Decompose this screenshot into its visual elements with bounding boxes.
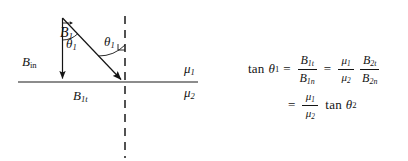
- theta1-interface-sub: 1: [110, 40, 114, 50]
- equation-line-2: = μ1 μ2 tanθ2: [248, 88, 382, 122]
- fraction-b2t-over-b2n: B2t B2n: [360, 53, 379, 86]
- normal-angle-tick: [118, 44, 125, 50]
- equation-line-1: tanθ1 = B1t B1n = μ1 μ2 B2t B2n: [248, 52, 382, 86]
- b1t-label-sub: 1t: [81, 94, 88, 104]
- tan-function-1: tan: [248, 61, 264, 77]
- frac1-den-base: B: [300, 71, 307, 85]
- frac3-den-sub: 2n: [369, 76, 377, 85]
- theta1-apex-sub: 1: [72, 42, 76, 52]
- bin-label-base: B: [22, 54, 30, 69]
- frac1-num-sub: 1t: [308, 58, 314, 67]
- b1t-label: B1t: [73, 89, 88, 102]
- b1t-label-base: B: [73, 88, 81, 103]
- fraction-4-numerator: μ1: [304, 90, 317, 104]
- mu2-label: μ2: [184, 86, 195, 99]
- frac4-den-sub: 2: [311, 112, 315, 120]
- fraction-2-numerator: μ1: [340, 54, 353, 68]
- fraction-4-bar: [302, 105, 318, 106]
- bin-label-sub: in: [30, 60, 37, 70]
- fraction-mu1-over-mu2-line1: μ1 μ2: [338, 54, 354, 85]
- mu1-sub: 1: [191, 67, 195, 77]
- figure-canvas: B1 Bin θ1 θ1 B1t μ1 μ2 tanθ1 = B1t B1n =…: [0, 0, 408, 161]
- equals-sign-1: =: [283, 61, 290, 77]
- frac2-num-sub: 1: [347, 59, 351, 67]
- fraction-1-numerator: B1t: [298, 53, 316, 68]
- tan-function-2: tan: [325, 97, 341, 113]
- equation-block: tanθ1 = B1t B1n = μ1 μ2 B2t B2n =: [248, 52, 382, 122]
- equals-sign-2: =: [324, 61, 331, 77]
- frac1-num-base: B: [300, 53, 307, 67]
- fraction-1-denominator: B1n: [298, 71, 317, 86]
- mu2-sub: 2: [191, 91, 195, 101]
- fraction-3-denominator: B2n: [360, 71, 379, 86]
- fraction-2-denominator: μ2: [340, 71, 353, 85]
- fraction-1-bar: [298, 69, 317, 70]
- fraction-4-denominator: μ2: [304, 107, 317, 121]
- fraction-2-bar: [338, 69, 354, 70]
- bin-label: Bin: [22, 55, 37, 68]
- fraction-b1t-over-b1n: B1t B1n: [298, 53, 317, 86]
- mu1-label: μ1: [184, 62, 195, 75]
- frac3-num-sub: 2t: [370, 58, 376, 67]
- equals-sign-3: =: [288, 97, 295, 113]
- frac4-num-sub: 1: [311, 95, 315, 103]
- fraction-3-bar: [360, 69, 379, 70]
- fraction-mu1-over-mu2-line2: μ1 μ2: [302, 90, 318, 121]
- vector-hat-arrow-icon: [62, 20, 73, 26]
- theta1-apex-label: θ1: [66, 37, 77, 50]
- theta1-interface-label: θ1: [104, 35, 115, 48]
- fraction-3-numerator: B2t: [361, 53, 379, 68]
- frac2-den-sub: 2: [347, 76, 351, 84]
- frac1-den-sub: 1n: [307, 76, 315, 85]
- theta1-equation-symbol: θ: [268, 61, 274, 77]
